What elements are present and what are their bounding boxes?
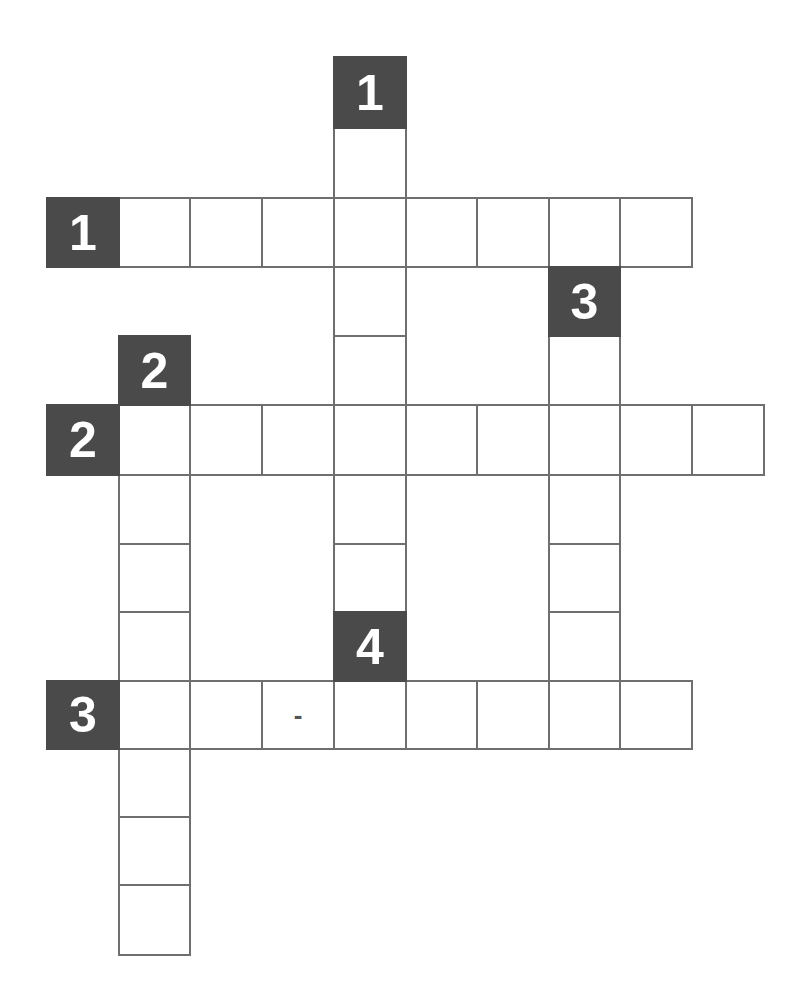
answer-cell[interactable] <box>548 680 621 750</box>
answer-cell[interactable] <box>405 404 478 476</box>
clue-number-down-3[interactable]: 3 <box>548 266 621 337</box>
answer-cell[interactable] <box>476 404 550 476</box>
answer-cell[interactable] <box>476 680 550 750</box>
clue-number-across-1[interactable]: 1 <box>46 197 120 268</box>
clue-number-across-3[interactable]: 3 <box>46 680 120 750</box>
answer-cell[interactable] <box>333 543 407 613</box>
answer-cell[interactable] <box>619 680 693 750</box>
answer-cell[interactable] <box>261 197 335 268</box>
answer-cell[interactable] <box>333 266 407 337</box>
clue-number-label: 1 <box>356 68 384 118</box>
answer-cell[interactable] <box>118 680 191 750</box>
clue-number-across-2[interactable]: 2 <box>46 404 120 476</box>
answer-cell[interactable] <box>548 611 621 682</box>
answer-cell[interactable] <box>118 474 191 545</box>
answer-cell[interactable] <box>189 197 263 268</box>
answer-cell[interactable] <box>118 543 191 613</box>
answer-cell[interactable] <box>118 816 191 886</box>
answer-cell[interactable] <box>189 680 263 750</box>
clue-number-label: 4 <box>356 622 384 672</box>
answer-cell[interactable] <box>333 404 407 476</box>
hyphen-mark: - <box>294 702 303 728</box>
answer-cell[interactable] <box>476 197 550 268</box>
answer-cell[interactable] <box>189 404 263 476</box>
crossword-grid: -1132243 <box>0 0 806 992</box>
clue-number-down-4[interactable]: 4 <box>333 611 407 682</box>
answer-cell[interactable] <box>333 335 407 406</box>
answer-cell[interactable] <box>118 611 191 682</box>
answer-cell[interactable] <box>261 404 335 476</box>
clue-number-label: 3 <box>69 690 97 740</box>
clue-number-label: 2 <box>141 346 169 396</box>
answer-cell[interactable] <box>333 680 407 750</box>
answer-cell[interactable] <box>405 197 478 268</box>
answer-cell[interactable] <box>548 404 621 476</box>
answer-cell[interactable] <box>691 404 765 476</box>
clue-number-label: 3 <box>571 277 599 327</box>
answer-cell[interactable] <box>405 680 478 750</box>
answer-cell[interactable] <box>619 404 693 476</box>
answer-cell[interactable] <box>118 197 191 268</box>
answer-cell[interactable] <box>333 197 407 268</box>
answer-cell[interactable] <box>333 127 407 199</box>
clue-number-label: 1 <box>69 208 97 258</box>
answer-cell[interactable]: - <box>261 680 335 750</box>
clue-number-label: 2 <box>69 415 97 465</box>
answer-cell[interactable] <box>548 197 621 268</box>
answer-cell[interactable] <box>118 884 191 956</box>
answer-cell[interactable] <box>118 748 191 818</box>
clue-number-down-1[interactable]: 1 <box>333 56 407 129</box>
answer-cell[interactable] <box>548 474 621 545</box>
answer-cell[interactable] <box>548 543 621 613</box>
answer-cell[interactable] <box>619 197 693 268</box>
answer-cell[interactable] <box>118 404 191 476</box>
answer-cell[interactable] <box>548 335 621 406</box>
answer-cell[interactable] <box>333 474 407 545</box>
clue-number-down-2[interactable]: 2 <box>118 335 191 406</box>
